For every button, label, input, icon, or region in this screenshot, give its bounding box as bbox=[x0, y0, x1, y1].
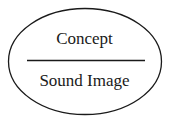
concept-label: Concept bbox=[0, 29, 169, 49]
sound-image-label: Sound Image bbox=[0, 71, 169, 91]
sign-ellipse bbox=[9, 9, 162, 115]
sign-diagram bbox=[0, 0, 169, 124]
